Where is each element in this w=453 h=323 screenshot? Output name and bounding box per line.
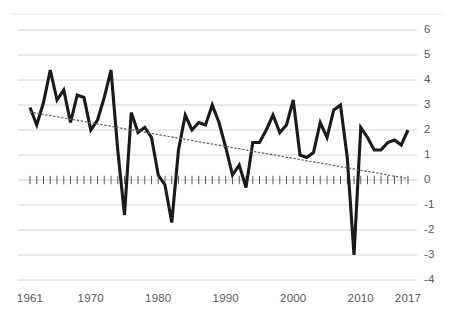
x-tick-label-1990: 1990 (196, 293, 256, 305)
x-tick-label-1980: 1980 (128, 293, 188, 305)
y-tick-label-0: 0 (424, 174, 431, 186)
y-tick-label-5: 5 (424, 49, 431, 61)
y-tick-label-6: 6 (424, 24, 431, 36)
y-tick-label-3: 3 (424, 99, 431, 111)
x-tick-label-2017: 2017 (378, 293, 438, 305)
y-tick-label--1: -1 (424, 199, 435, 211)
x-tick-label-2000: 2000 (263, 293, 323, 305)
y-tick-label--4: -4 (424, 274, 435, 286)
x-tick-label-1970: 1970 (61, 293, 121, 305)
chart-plot-area (0, 0, 453, 323)
x-tick-label-1961: 1961 (0, 293, 60, 305)
y-tick-label--3: -3 (424, 249, 435, 261)
data-series-lines (30, 70, 408, 255)
series-annual-series (30, 70, 408, 255)
y-tick-label--2: -2 (424, 224, 435, 236)
y-tick-label-2: 2 (424, 124, 431, 136)
y-tick-label-1: 1 (424, 149, 431, 161)
y-tick-label-4: 4 (424, 74, 431, 86)
chart-container: 6543210-1-2-3-4 196119701980199020002010… (0, 0, 453, 323)
